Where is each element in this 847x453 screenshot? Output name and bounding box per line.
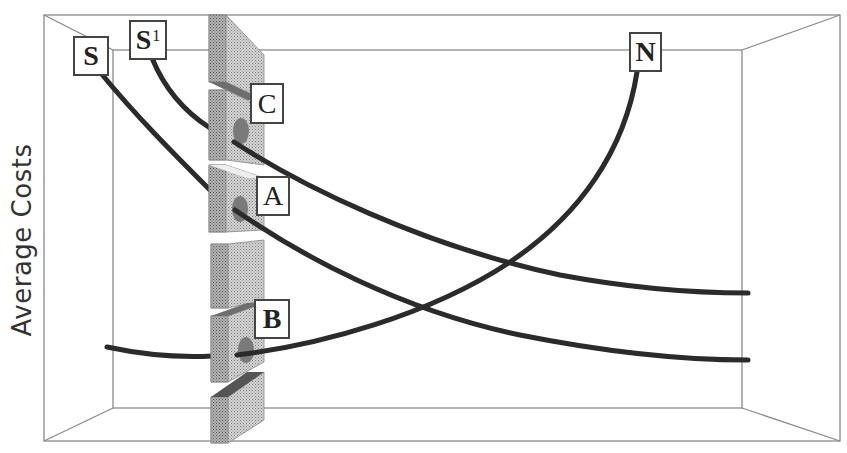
curve-s-left [100,72,210,190]
label-c: C [250,83,284,124]
label-c-text: C [258,88,277,120]
label-s1: S1 [129,20,167,60]
label-a: A [256,176,290,216]
curve-s [235,210,748,360]
label-b-text: B [263,303,282,335]
label-s1-superscript: 1 [152,27,160,45]
y-axis-label: Average Costs [2,140,42,340]
curve-s1-left [152,58,210,128]
label-a-text: A [263,180,283,212]
curve-s1 [234,142,748,293]
y-axis-label-text: Average Costs [7,144,37,337]
cost-curve-diagram [0,0,847,453]
label-b: B [254,299,290,339]
label-s: S [73,36,109,76]
curve-n-left [107,347,212,357]
label-s-text: S [83,40,99,72]
perforated-wall [209,15,264,443]
hole-b [238,337,254,363]
label-s1-text: S [136,24,152,56]
label-n-text: N [635,36,655,68]
label-n: N [629,32,662,72]
